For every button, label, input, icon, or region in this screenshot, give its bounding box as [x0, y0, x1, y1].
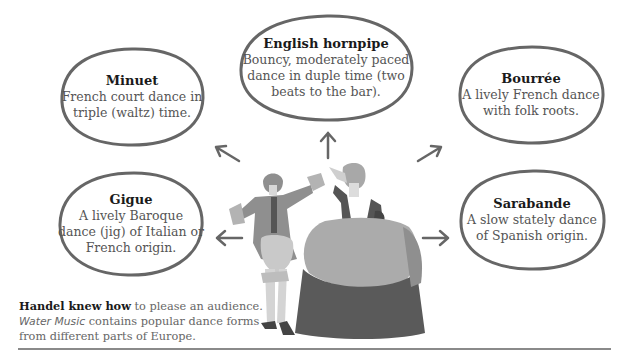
dance-desc-line: A slow stately dance [467, 212, 597, 227]
arrow-up-left-icon [212, 142, 242, 164]
dance-desc-line: with folk roots. [483, 103, 579, 118]
bubble-sarabande: Sarabande A slow stately dance of Spanis… [457, 168, 607, 272]
dance-title: Minuet [62, 73, 203, 89]
dance-desc-line: French origin. [86, 240, 177, 255]
bubble-gigue: Gigue A lively Baroque dance (jig) of It… [56, 170, 206, 278]
bubble-minuet: Minuet French court dance in triple (wal… [58, 46, 206, 148]
dance-desc-line: beats to the bar). [271, 84, 381, 99]
dance-desc-line: A lively Baroque [79, 208, 183, 223]
dance-desc-line: of Spanish origin. [476, 228, 588, 243]
caption-text: Handel knew how to please an audience. W… [19, 299, 263, 344]
arrow-up-icon [318, 130, 338, 160]
dance-desc-line: French court dance in [62, 89, 203, 104]
dance-title: English hornpipe [243, 36, 410, 52]
dance-title: Sarabande [467, 196, 597, 212]
dance-desc-line: dance in duple time (two [247, 68, 405, 83]
dance-title: Bourrée [462, 71, 600, 87]
dance-title: Gigue [58, 192, 204, 208]
arrow-up-right-icon [415, 142, 445, 164]
dance-desc-line: A lively French dance [462, 87, 600, 102]
caption-text-part: from different parts of Europe. [19, 330, 196, 343]
dance-desc-line: triple (waltz) time. [73, 105, 191, 120]
dance-desc-line: Bouncy, moderately paced [243, 52, 410, 67]
bubble-english-hornpipe: English hornpipe Bouncy, moderately pace… [237, 13, 415, 123]
dance-desc-line: dance (jig) of Italian or [58, 224, 204, 239]
bottom-divider [18, 348, 611, 350]
caption-text-part: contains popular dance forms [85, 315, 259, 328]
caption-bold-lead: Handel knew how [19, 299, 131, 313]
bubble-bourree: Bourrée A lively French dance with folk … [456, 44, 606, 146]
caption-work-title: Water Music [19, 315, 85, 328]
caption-text-part: to please an audience. [131, 300, 263, 313]
